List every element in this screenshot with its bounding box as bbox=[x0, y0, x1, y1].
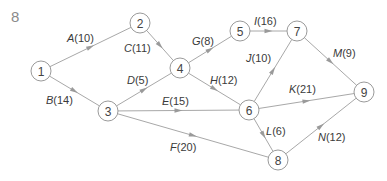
node-label: 2 bbox=[137, 17, 144, 31]
arrow-head-icon bbox=[260, 130, 266, 138]
edge-label-d: D(5) bbox=[127, 74, 148, 86]
activity-duration: (5) bbox=[135, 74, 148, 86]
edge-label-b: B(14) bbox=[46, 94, 73, 106]
activity-duration: (9) bbox=[342, 47, 355, 59]
edge-label-g: G(8) bbox=[192, 35, 214, 47]
arrow-head-icon bbox=[189, 132, 197, 136]
edge-label-f: F(20) bbox=[170, 141, 196, 153]
activity-name: D bbox=[127, 74, 135, 86]
node-6: 6 bbox=[239, 100, 259, 120]
arrow-head-icon bbox=[70, 87, 78, 93]
activity-duration: (12) bbox=[218, 74, 238, 86]
activity-name: A bbox=[66, 32, 74, 44]
node-label: 1 bbox=[38, 65, 45, 79]
arrow-head-icon bbox=[174, 108, 182, 112]
activity-duration: (6) bbox=[272, 125, 285, 137]
arrow-head-icon bbox=[205, 47, 213, 53]
node-9: 9 bbox=[354, 82, 374, 102]
edge-label-h: H(12) bbox=[210, 74, 238, 86]
edge-e bbox=[118, 108, 239, 112]
activity-name: H bbox=[210, 74, 218, 86]
activity-duration: (14) bbox=[53, 94, 73, 106]
edge-label-m: M(9) bbox=[333, 47, 356, 59]
node-label: 5 bbox=[237, 25, 244, 39]
node-3: 3 bbox=[98, 101, 118, 121]
edge-label-i: I(16) bbox=[254, 15, 277, 27]
node-label: 7 bbox=[294, 25, 301, 39]
edge-k bbox=[259, 94, 354, 109]
edge-label-k: K(21) bbox=[289, 83, 316, 95]
arrow-head-icon bbox=[86, 45, 94, 50]
activity-name: C bbox=[124, 42, 132, 54]
activity-duration: (15) bbox=[169, 95, 189, 107]
edge-label-a: A(10) bbox=[66, 32, 94, 44]
node-2: 2 bbox=[130, 13, 150, 33]
node-7: 7 bbox=[287, 21, 307, 41]
edge-label-n: N(12) bbox=[318, 131, 346, 143]
activity-network-diagram: A(10)B(14)C(11)D(5)E(15)F(20)G(8)H(12)I(… bbox=[0, 0, 387, 181]
edge-label-l: L(6) bbox=[266, 125, 286, 137]
edge-label-j: J(10) bbox=[245, 52, 271, 64]
arrow-head-icon bbox=[139, 87, 147, 93]
edge-j bbox=[254, 40, 292, 102]
arrow-head-icon bbox=[269, 67, 275, 75]
edge-label-c: C(11) bbox=[124, 42, 151, 54]
activity-duration: (12) bbox=[326, 131, 346, 143]
activity-duration: (8) bbox=[201, 35, 214, 47]
node-4: 4 bbox=[170, 58, 190, 78]
node-label: 8 bbox=[275, 154, 282, 168]
node-label: 9 bbox=[361, 86, 368, 100]
node-label: 4 bbox=[177, 62, 184, 76]
edge-label-e: E(15) bbox=[162, 95, 189, 107]
activity-duration: (16) bbox=[257, 15, 277, 27]
activity-duration: (10) bbox=[252, 52, 272, 64]
activity-duration: (21) bbox=[296, 83, 316, 95]
node-label: 6 bbox=[246, 104, 253, 118]
activity-duration: (11) bbox=[132, 42, 151, 54]
node-1: 1 bbox=[31, 61, 51, 81]
activity-duration: (20) bbox=[177, 141, 197, 153]
edge-i bbox=[250, 29, 287, 33]
activity-name: B bbox=[46, 94, 53, 106]
activity-duration: (10) bbox=[74, 32, 94, 44]
edge-labels-layer: A(10)B(14)C(11)D(5)E(15)F(20)G(8)H(12)I(… bbox=[46, 15, 356, 153]
arrow-head-icon bbox=[265, 29, 273, 33]
node-8: 8 bbox=[268, 150, 288, 170]
edge-m bbox=[304, 38, 356, 86]
edge-n bbox=[286, 98, 356, 154]
node-label: 3 bbox=[105, 105, 112, 119]
node-5: 5 bbox=[230, 21, 250, 41]
activity-name: N bbox=[318, 131, 326, 143]
